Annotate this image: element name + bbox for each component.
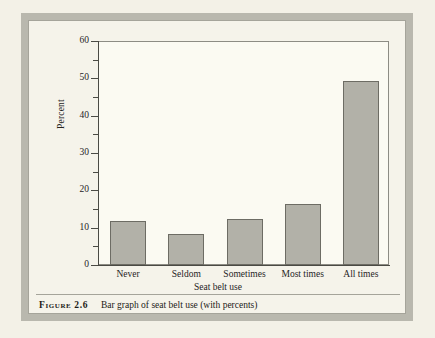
x-axis-title: Seat belt use	[29, 282, 407, 292]
bar	[168, 234, 204, 265]
bar	[285, 204, 321, 265]
figure-page: 0102030405060 Percent NeverSeldomSometim…	[0, 0, 435, 338]
y-axis-tick-label: 50	[63, 73, 89, 83]
figure-inner-frame: 0102030405060 Percent NeverSeldomSometim…	[28, 20, 406, 314]
y-axis-labels: 0102030405060	[61, 21, 89, 289]
y-axis-tick-major	[91, 190, 98, 191]
bar	[110, 221, 146, 265]
figure-outer-frame: 0102030405060 Percent NeverSeldomSometim…	[21, 13, 413, 321]
figure-caption: Figure 2.6Bar graph of seat belt use (wi…	[39, 300, 399, 310]
y-axis-title: Percent	[56, 99, 66, 129]
y-axis-tick-label: 40	[63, 111, 89, 121]
bar	[343, 81, 379, 265]
x-axis-category-label: Never	[99, 269, 157, 280]
bar-chart: 0102030405060 Percent NeverSeldomSometim…	[29, 21, 407, 289]
y-axis-tick-major	[91, 78, 98, 79]
y-axis-tick-major	[91, 116, 98, 117]
y-axis-tick-label: 0	[63, 260, 89, 270]
x-axis-category-label: Seldom	[157, 269, 215, 280]
y-axis-tick-major	[91, 41, 98, 42]
y-axis-tick-major	[91, 265, 98, 266]
y-axis-tick-label: 30	[63, 148, 89, 158]
x-axis-line	[98, 265, 390, 266]
x-axis-category-label: All times	[332, 269, 390, 280]
bar	[227, 219, 263, 265]
x-axis-category-label: Sometimes	[215, 269, 273, 280]
caption-divider	[36, 294, 400, 295]
y-axis-tick-major	[91, 228, 98, 229]
y-axis-tick-major	[91, 153, 98, 154]
y-axis-tick-label: 60	[63, 36, 89, 46]
y-axis-tick-label: 20	[63, 185, 89, 195]
x-axis-category-label: Most times	[274, 269, 332, 280]
y-axis-tick-label: 10	[63, 223, 89, 233]
figure-number: Figure 2.6	[39, 300, 88, 310]
bar-series	[99, 41, 389, 265]
figure-caption-text: Bar graph of seat belt use (with percent…	[101, 300, 257, 310]
